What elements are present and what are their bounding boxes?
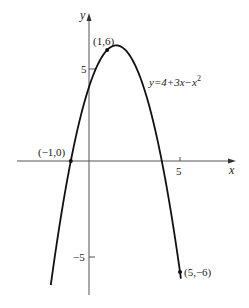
function-label: y=4+3x−x2 [148, 74, 201, 88]
x-tick-label-5: 5 [176, 165, 182, 177]
y-axis-arrow-icon [87, 13, 92, 21]
function-label-text: y=4+3x−x [148, 76, 197, 88]
y-tick-label-5: 5 [81, 63, 87, 75]
parabola-chart: y x 5 5 −5 (1,6) (−1,0) (5,−6) y=4+3x−x2 [0, 0, 249, 308]
function-label-exponent: 2 [197, 74, 201, 83]
point-label-5-neg6: (5,−6) [184, 266, 212, 279]
point-label-neg1-0: (−1,0) [38, 146, 66, 159]
x-axis-label: x [228, 163, 235, 177]
point-1-6 [105, 48, 109, 52]
point-label-1-6: (1,6) [93, 35, 114, 48]
y-axis-label: y [79, 8, 86, 22]
point-neg1-0 [69, 159, 73, 163]
y-tick-label-neg5: −5 [73, 251, 85, 263]
point-5-neg6 [178, 270, 182, 274]
